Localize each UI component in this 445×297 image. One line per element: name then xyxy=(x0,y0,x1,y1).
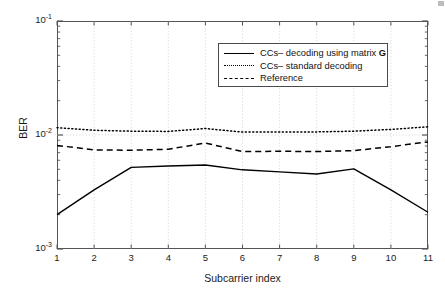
x-tick-label: 5 xyxy=(193,252,217,263)
x-tick-label: 10 xyxy=(379,252,403,263)
y-tick-label: 10-3 xyxy=(6,242,52,253)
x-tick-label: 1 xyxy=(45,252,69,263)
legend-line-dashed-icon xyxy=(224,73,254,84)
x-tick-label: 11 xyxy=(416,252,440,263)
corner-artifact xyxy=(438,1,444,6)
chart-figure: BER Subcarrier index 1234567891011 10-31… xyxy=(0,0,445,297)
legend-line-dotted-icon xyxy=(224,60,254,71)
legend-label: CCs– standard decoding xyxy=(260,61,362,71)
y-tick-label: 10-1 xyxy=(6,14,52,25)
legend-label: Reference xyxy=(260,73,303,83)
x-tick-label: 7 xyxy=(268,252,292,263)
legend-item: CCs– decoding using matrix G xyxy=(219,47,387,60)
chart-legend: CCs– decoding using matrix G CCs– standa… xyxy=(218,43,388,87)
y-tick-label: 10-2 xyxy=(6,128,52,139)
x-tick-label: 8 xyxy=(305,252,329,263)
x-tick-label: 2 xyxy=(82,252,106,263)
x-tick-label: 4 xyxy=(156,252,180,263)
x-tick-label: 9 xyxy=(342,252,366,263)
legend-label: CCs– decoding using matrix G xyxy=(260,48,386,58)
x-tick-label: 3 xyxy=(119,252,143,263)
x-tick-label: 6 xyxy=(231,252,255,263)
x-axis-label: Subcarrier index xyxy=(57,272,428,284)
legend-item: CCs– standard decoding xyxy=(219,60,387,73)
legend-line-solid-icon xyxy=(224,48,254,59)
legend-item: Reference xyxy=(219,72,387,85)
